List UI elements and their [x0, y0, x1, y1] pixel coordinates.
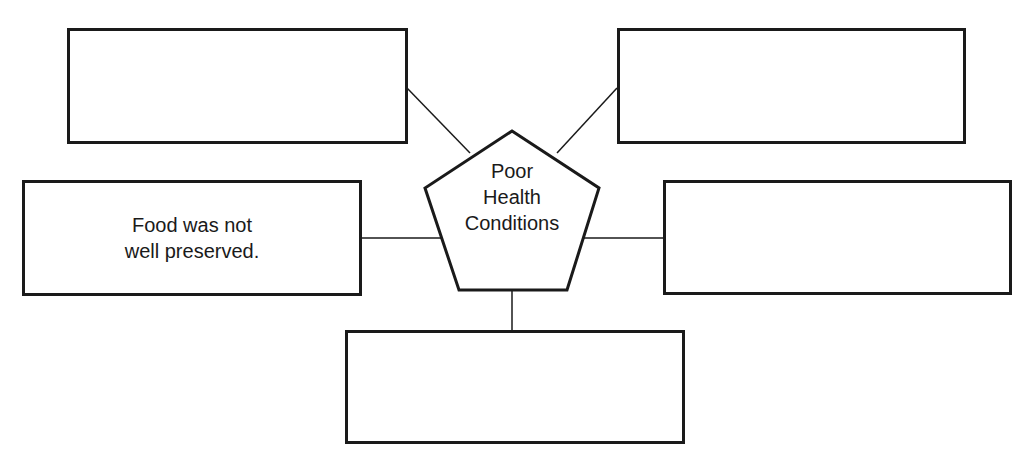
box-middle-right[interactable]: [663, 180, 1012, 295]
center-label: Poor Health Conditions: [432, 158, 592, 236]
center-label-line-1: Poor: [432, 158, 592, 184]
box-top-left[interactable]: [67, 28, 408, 144]
box-top-right[interactable]: [617, 28, 966, 144]
center-label-line-2: Health: [432, 184, 592, 210]
box-middle-left[interactable]: Food was not well preserved.: [22, 180, 362, 296]
box-middle-left-line-1: Food was not: [125, 212, 260, 238]
center-label-line-3: Conditions: [432, 210, 592, 236]
box-bottom[interactable]: [345, 330, 685, 444]
box-middle-left-text: Food was not well preserved.: [125, 212, 260, 264]
connector-top-left: [407, 88, 470, 153]
box-middle-left-line-2: well preserved.: [125, 238, 260, 264]
connector-top-right: [557, 88, 617, 153]
